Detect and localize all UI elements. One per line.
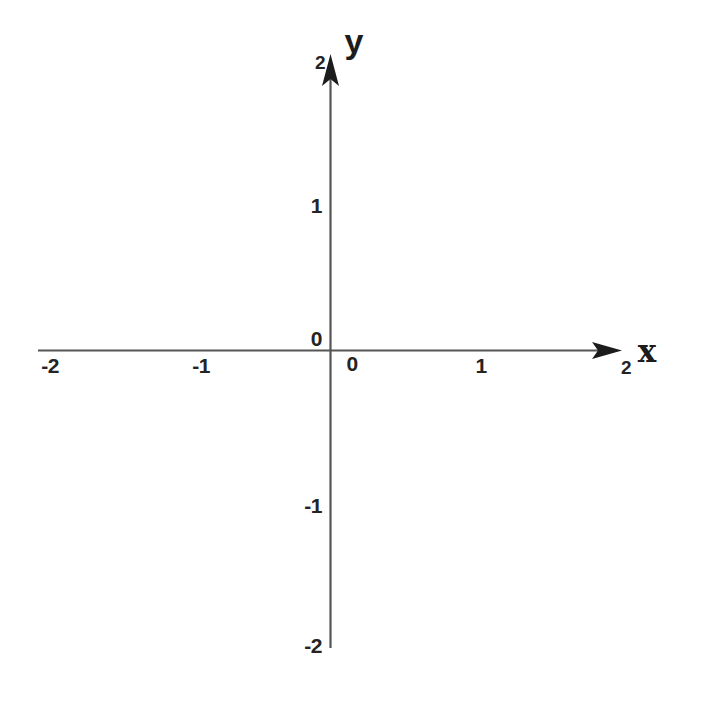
x-tick-label-1: 1 bbox=[475, 355, 486, 376]
coordinate-plane-figure: -2 -1 0 1 2 2 1 0 -1 -2 y x bbox=[0, 0, 705, 721]
y-axis-name-label: y bbox=[345, 24, 364, 58]
x-axis-name-label: x bbox=[638, 336, 656, 367]
y-tick-label--1: -1 bbox=[304, 495, 322, 516]
y-tick-label--2: -2 bbox=[304, 635, 322, 656]
y-tick-label-1: 1 bbox=[311, 195, 322, 216]
x-tick-label-0: 0 bbox=[346, 353, 357, 374]
y-tick-label-2: 2 bbox=[315, 53, 325, 72]
x-tick-label--1: -1 bbox=[192, 355, 210, 376]
y-tick-label-0: 0 bbox=[311, 328, 322, 349]
x-tick-label-2: 2 bbox=[621, 358, 631, 377]
x-tick-label--2: -2 bbox=[41, 355, 59, 376]
